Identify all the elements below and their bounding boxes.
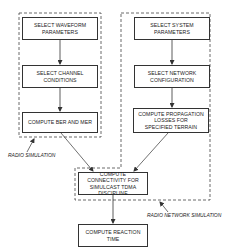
radio-simulation-label: RADIO SIMULATION <box>8 152 55 158</box>
arrow-n6-n7 <box>134 133 168 171</box>
radio-network-simulation-pointer <box>160 202 168 212</box>
arrow-n3-n7 <box>61 133 93 171</box>
radio-simulation-pointer <box>27 139 34 152</box>
node-select-waveform-parameters: SELECT WAVEFORM PARAMETERS <box>22 17 98 40</box>
node-compute-connectivity: COMPUTE CONNECTIVITY FOR SIMULCAST TDMA … <box>78 172 148 195</box>
node-compute-propagation-losses: COMPUTE PROPAGATION LOSSES FOR SPECIFIED… <box>133 108 209 133</box>
radio-network-simulation-label: RADIO NETWORK SIMULATION <box>147 212 221 218</box>
node-select-channel-conditions: SELECT CHANNEL CONDITIONS <box>22 65 98 88</box>
node-compute-reaction-time: COMPUTE REACTION TIME <box>78 224 148 247</box>
node-select-system-parameters: SELECT SYSTEM PARAMETERS <box>134 17 210 40</box>
node-select-network-configuration: SELECT NETWORK CONFIGURATION <box>134 65 210 88</box>
node-compute-ber-and-mer: COMPUTE BER AND MER <box>22 112 98 133</box>
